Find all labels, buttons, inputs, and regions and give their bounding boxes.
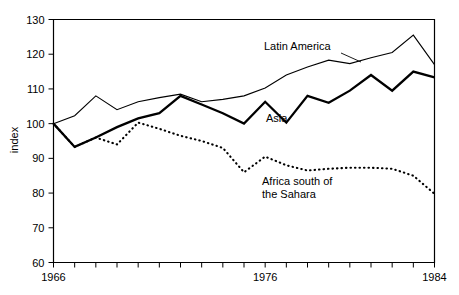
series-line-asia (54, 72, 435, 147)
y-axis: 60708090100110120130 (26, 14, 53, 269)
line-chart: 60708090100110120130 196619761984 Latin … (0, 0, 459, 295)
series-label-africa-line1: Africa south of (262, 175, 333, 187)
y-tick-label: 70 (32, 222, 44, 234)
chart-container: 60708090100110120130 196619761984 Latin … (0, 0, 459, 295)
x-tick-label: 1984 (422, 271, 446, 283)
y-tick-label: 130 (26, 14, 44, 26)
y-tick-label: 110 (27, 83, 45, 95)
series-label-africa-line2: the Sahara (262, 188, 317, 200)
latin-america-leader-line (341, 53, 361, 62)
x-tick-label: 1966 (41, 271, 65, 283)
y-tick-label: 90 (32, 152, 44, 164)
series-line-africa-south-of-the-sahara (54, 123, 435, 194)
x-axis: 196619761984 (41, 263, 446, 283)
y-tick-label: 60 (32, 257, 44, 269)
y-axis-title: index (8, 126, 20, 153)
series-group (54, 35, 435, 194)
y-tick-label: 120 (26, 48, 44, 60)
x-tick-label: 1976 (253, 271, 277, 283)
series-label-asia: Asia (266, 112, 288, 124)
y-tick-label: 100 (26, 118, 44, 130)
series-label-latin-america: Latin America (264, 40, 332, 52)
y-tick-label: 80 (32, 187, 44, 199)
